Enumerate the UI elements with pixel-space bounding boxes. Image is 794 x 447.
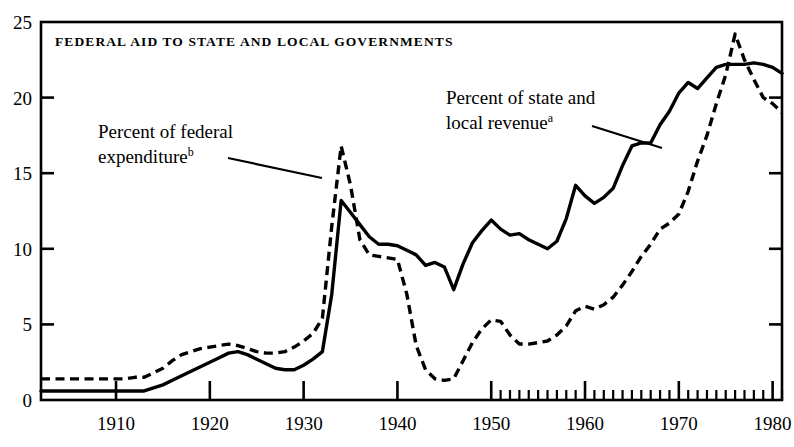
annotation-right-superscript: a [548,111,554,125]
x-tick-label-1930: 1930 [285,413,323,434]
annotation-right-line2: local revenue [446,112,548,133]
y-tick-label-10: 10 [13,239,32,260]
annotation-left-line1: Percent of federal [98,121,233,142]
y-tick-label-25: 25 [13,12,32,33]
annotation-right-line1: Percent of state and [446,87,596,108]
x-tick-label-1970: 1970 [660,413,698,434]
y-tick-label-0: 0 [23,390,33,411]
svg-text:expenditureb: expenditureb [98,145,194,167]
svg-text:local revenuea: local revenuea [446,111,554,133]
y-tick-label-5: 5 [23,314,33,335]
y-tick-label-15: 15 [13,163,32,184]
federal-aid-line-chart: 0510152025 19101920193019401950196019701… [0,0,794,447]
chart-title: FEDERAL AID TO STATE AND LOCAL GOVERNMEN… [55,34,454,49]
x-tick-label-1950: 1950 [472,413,510,434]
x-tick-label-1980: 1980 [754,413,792,434]
x-tick-label-1940: 1940 [378,413,416,434]
y-tick-label-20: 20 [13,88,32,109]
x-tick-label-1960: 1960 [566,413,604,434]
x-tick-label-1920: 1920 [191,413,229,434]
annotation-left-line2: expenditure [98,146,188,167]
chart-page: 0510152025 19101920193019401950196019701… [0,0,794,447]
annotation-left-superscript: b [188,145,194,159]
x-tick-label-1910: 1910 [97,413,135,434]
